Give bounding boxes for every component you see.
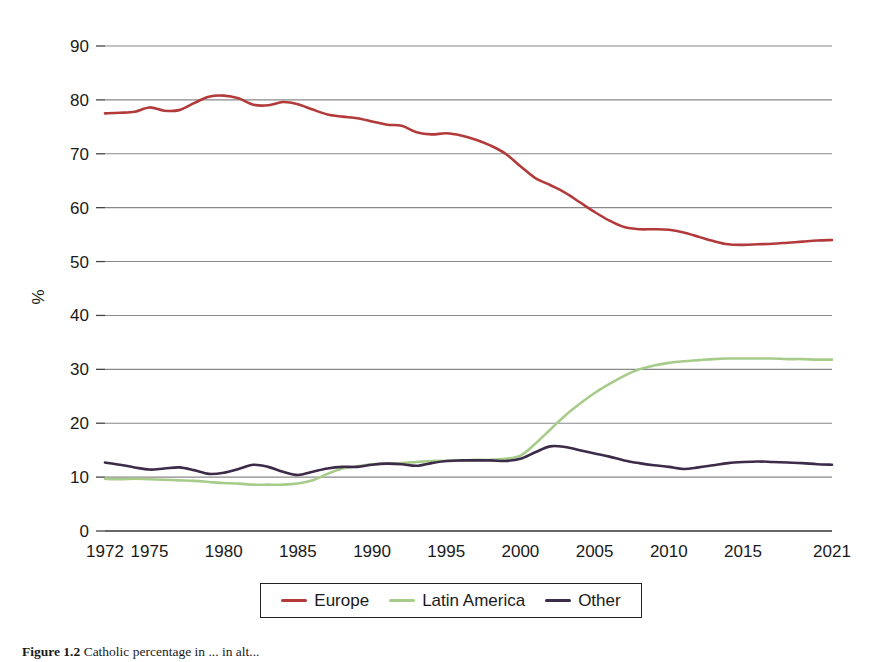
y-tick-label-50: 50 <box>70 253 89 272</box>
y-tick-label-0: 0 <box>80 522 89 541</box>
series-line-latin-america <box>105 359 832 485</box>
x-tick-label-1990: 1990 <box>353 542 391 561</box>
y-axis-title: % <box>29 289 48 304</box>
figure-caption: Figure 1.2 Catholic percentage in ... in… <box>22 644 862 660</box>
x-tick-label-2005: 2005 <box>576 542 614 561</box>
y-tick-label-70: 70 <box>70 145 89 164</box>
y-tick-label-30: 30 <box>70 360 89 379</box>
y-tick-label-80: 80 <box>70 91 89 110</box>
legend-label: Europe <box>314 591 369 611</box>
series-line-europe <box>105 95 832 244</box>
figure-root: 0102030405060708090%19721975198019851990… <box>0 0 876 662</box>
legend-item-europe[interactable]: Europe <box>281 591 369 611</box>
caption-number: Figure 1.2 <box>22 644 80 659</box>
legend-item-other[interactable]: Other <box>545 591 621 611</box>
x-tick-label-1985: 1985 <box>279 542 317 561</box>
legend-label: Latin America <box>422 591 525 611</box>
legend-swatch-icon <box>545 599 571 602</box>
line-chart: 0102030405060708090%19721975198019851990… <box>0 0 876 662</box>
y-tick-label-10: 10 <box>70 468 89 487</box>
series-line-other <box>105 446 832 475</box>
x-tick-label-1975: 1975 <box>131 542 169 561</box>
y-tick-label-20: 20 <box>70 414 89 433</box>
x-tick-label-1980: 1980 <box>205 542 243 561</box>
legend-swatch-icon <box>389 599 415 602</box>
x-tick-label-2000: 2000 <box>502 542 540 561</box>
chart-legend: EuropeLatin AmericaOther <box>260 583 642 618</box>
legend-label: Other <box>578 591 621 611</box>
y-tick-label-60: 60 <box>70 199 89 218</box>
legend-item-latin-america[interactable]: Latin America <box>389 591 525 611</box>
legend-swatch-icon <box>281 599 307 602</box>
x-tick-label-1972: 1972 <box>86 542 124 561</box>
caption-text: Catholic percentage in ... in alt... <box>84 644 260 659</box>
y-tick-label-90: 90 <box>70 37 89 56</box>
x-tick-label-2021: 2021 <box>813 542 851 561</box>
x-tick-label-1995: 1995 <box>427 542 465 561</box>
x-tick-label-2010: 2010 <box>650 542 688 561</box>
y-tick-label-40: 40 <box>70 306 89 325</box>
x-tick-label-2015: 2015 <box>724 542 762 561</box>
